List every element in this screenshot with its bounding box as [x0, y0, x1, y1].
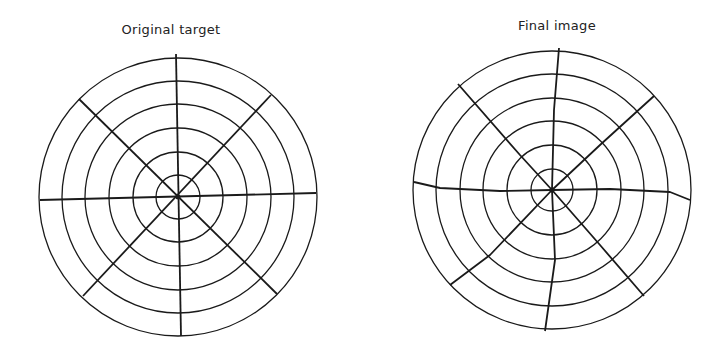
- final-image-graphic: [413, 48, 691, 331]
- polar-target-diagrams: [0, 0, 725, 355]
- center-point: [550, 188, 555, 193]
- center-point: [176, 195, 181, 200]
- original-target-graphic: [39, 54, 317, 336]
